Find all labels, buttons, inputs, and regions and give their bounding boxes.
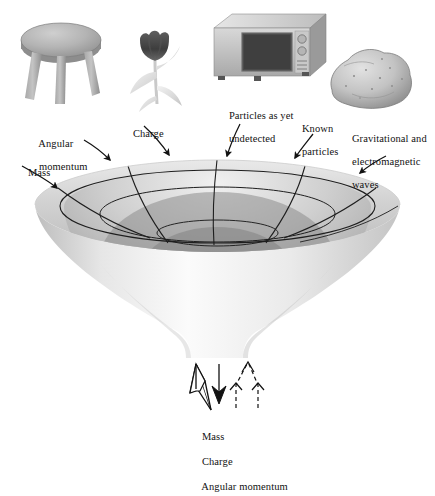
label-line: Known bbox=[302, 123, 333, 134]
caption-line-mass: Mass bbox=[202, 431, 225, 442]
label-line: electromagnetic bbox=[352, 156, 421, 167]
label-line: particles bbox=[302, 146, 338, 157]
bottom-caption: Mass Charge Angular momentum bbox=[191, 418, 288, 496]
label-particles-as-yet-undetected: Particles as yet undetected bbox=[218, 98, 294, 156]
caption-line-angular-momentum: Angular momentum bbox=[201, 481, 287, 492]
label-charge: Charge bbox=[122, 116, 164, 151]
label-line: waves bbox=[352, 179, 379, 190]
funnel-latitude-rings bbox=[60, 170, 375, 246]
label-mass: Mass bbox=[17, 155, 50, 190]
label-line: Mass bbox=[28, 167, 51, 178]
caption-line-charge: Charge bbox=[202, 456, 233, 467]
outgoing-arrows bbox=[236, 362, 258, 408]
infalling-arrows bbox=[190, 364, 226, 410]
microwave-oven-icon bbox=[210, 8, 330, 92]
label-gravitational-electromagnetic-waves: Gravitational and electromagnetic waves bbox=[341, 121, 427, 202]
three-legged-stool-icon bbox=[12, 12, 110, 108]
tulip-flower-icon bbox=[122, 26, 194, 116]
label-known-particles: Known particles bbox=[291, 111, 338, 169]
label-line: Particles as yet bbox=[229, 110, 294, 121]
label-line: Angular bbox=[38, 138, 73, 149]
outgoing-arrowheads bbox=[230, 362, 264, 390]
label-line: undetected bbox=[229, 133, 275, 144]
label-line: Charge bbox=[133, 128, 164, 139]
label-line: Gravitational and bbox=[352, 133, 427, 144]
rock-boulder-icon bbox=[322, 44, 418, 114]
